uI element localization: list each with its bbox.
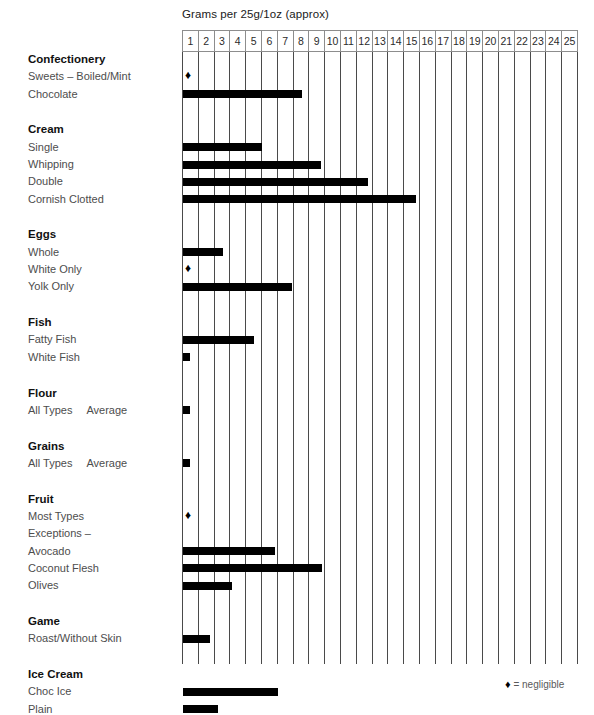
- axis-tick-25: 25: [562, 31, 577, 51]
- axis-tick-17: 17: [436, 31, 452, 51]
- row-label-roast-without-skin: Roast/Without Skin: [28, 632, 122, 644]
- axis-tick-16: 16: [420, 31, 436, 51]
- row-label-fatty-fish: Fatty Fish: [28, 333, 76, 345]
- group-heading-flour: Flour: [28, 387, 57, 399]
- bar-whipping: [183, 161, 321, 169]
- axis-tick-7: 7: [278, 31, 294, 51]
- axis-tick-19: 19: [467, 31, 483, 51]
- bar-olives: [183, 582, 232, 590]
- axis-tick-2: 2: [199, 31, 215, 51]
- bar-roast-without-skin: [183, 635, 210, 643]
- axis-tick-14: 14: [388, 31, 404, 51]
- group-heading-grains: Grains: [28, 440, 64, 452]
- bar-whole: [183, 248, 223, 256]
- axis-tick-23: 23: [531, 31, 547, 51]
- axis-tick-13: 13: [373, 31, 389, 51]
- axis-tick-20: 20: [483, 31, 499, 51]
- negligible-marker: ♦: [185, 70, 192, 81]
- bar-single: [183, 143, 262, 151]
- group-heading-eggs: Eggs: [28, 228, 56, 240]
- bar-white-fish: [183, 353, 190, 361]
- axis-tick-3: 3: [215, 31, 231, 51]
- axis-tick-9: 9: [309, 31, 325, 51]
- bar-yolk-only: [183, 283, 292, 291]
- axis-tick-1: 1: [183, 31, 199, 51]
- row-label-whole: Whole: [28, 246, 59, 258]
- row-label-single: Single: [28, 141, 59, 153]
- group-heading-cream: Cream: [28, 123, 64, 135]
- negligible-diamond-icon: ♦: [505, 678, 511, 690]
- negligible-marker: ♦: [185, 510, 192, 521]
- plot-area: ♦♦♦: [182, 52, 578, 664]
- bar-double: [183, 178, 368, 186]
- axis-tick-6: 6: [262, 31, 278, 51]
- row-label-double: Double: [28, 175, 63, 187]
- group-heading-fruit: Fruit: [28, 493, 54, 505]
- group-heading-ice-cream: Ice Cream: [28, 668, 83, 680]
- row-label-most-types: Most Types: [28, 510, 84, 522]
- legend-label: = negligible: [513, 679, 564, 690]
- row-label-chocolate: Chocolate: [28, 88, 78, 100]
- row-label-secondary: Average: [86, 404, 127, 416]
- axis-tick-8: 8: [294, 31, 310, 51]
- row-label-all-types: All TypesAverage: [28, 457, 127, 469]
- row-label-yolk-only: Yolk Only: [28, 280, 74, 292]
- bar-fatty-fish: [183, 336, 254, 344]
- axis-tick-12: 12: [357, 31, 373, 51]
- legend: ♦ = negligible: [505, 678, 564, 690]
- axis-tick-18: 18: [452, 31, 468, 51]
- bar-cornish-clotted: [183, 195, 416, 203]
- axis-title: Grams per 25g/1oz (approx): [182, 8, 329, 20]
- row-label-white-only: White Only: [28, 263, 82, 275]
- negligible-marker: ♦: [185, 263, 192, 274]
- row-label-plain: Plain: [28, 703, 52, 715]
- row-label-olives: Olives: [28, 579, 59, 591]
- bar-plain: [183, 705, 218, 713]
- axis-tick-22: 22: [515, 31, 531, 51]
- axis-tick-header: 1234567891011121314151617181920212223242…: [182, 30, 578, 52]
- row-label-secondary: Average: [86, 457, 127, 469]
- axis-tick-4: 4: [230, 31, 246, 51]
- bar-choc-ice: [183, 688, 278, 696]
- row-label-all-types: All TypesAverage: [28, 404, 127, 416]
- row-label-coconut-flesh: Coconut Flesh: [28, 562, 99, 574]
- row-label-whipping: Whipping: [28, 158, 74, 170]
- row-labels: ConfectionerySweets – Boiled/MintChocola…: [0, 52, 182, 664]
- row-label-choc-ice: Choc Ice: [28, 685, 71, 697]
- row-label-cornish-clotted: Cornish Clotted: [28, 193, 104, 205]
- axis-tick-21: 21: [499, 31, 515, 51]
- axis-tick-15: 15: [404, 31, 420, 51]
- axis-tick-5: 5: [246, 31, 262, 51]
- group-heading-fish: Fish: [28, 316, 52, 328]
- group-heading-confectionery: Confectionery: [28, 53, 105, 65]
- bar-all-types: [183, 459, 190, 467]
- bar-all-types: [183, 406, 190, 414]
- bar-coconut-flesh: [183, 564, 322, 572]
- axis-tick-24: 24: [546, 31, 562, 51]
- bar-chocolate: [183, 90, 302, 98]
- axis-tick-11: 11: [341, 31, 357, 51]
- row-label-sweets-boiled-mint: Sweets – Boiled/Mint: [28, 70, 131, 82]
- row-label-exceptions: Exceptions –: [28, 527, 91, 539]
- row-label-white-fish: White Fish: [28, 351, 80, 363]
- bar-avocado: [183, 547, 275, 555]
- bars-layer: ♦♦♦: [183, 52, 577, 664]
- row-label-avocado: Avocado: [28, 545, 71, 557]
- group-heading-game: Game: [28, 615, 60, 627]
- axis-tick-10: 10: [325, 31, 341, 51]
